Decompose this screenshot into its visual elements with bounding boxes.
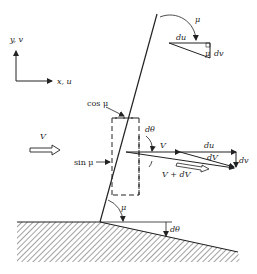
triangle-mu-label: μ — [205, 49, 210, 58]
y-axis-label: y, v — [9, 35, 24, 44]
dv-label: dv — [239, 156, 249, 165]
du-label: du — [204, 141, 214, 150]
upper-velocity-triangle: μ du μ dv — [160, 15, 224, 58]
coordinate-axes: y, v x, u — [9, 35, 72, 86]
freestream-label: V — [40, 132, 47, 141]
mach-wave-diagram: y, v x, u V dθ μ μ du μ dv cos μ — [0, 0, 257, 274]
svg-text:μ: μ — [121, 203, 126, 212]
velocity-vectors: V du dV V + dV dv — [126, 141, 249, 179]
sin-mu-label: sin μ — [74, 158, 94, 167]
top-du-label: du — [176, 33, 186, 42]
v-label: V — [160, 141, 167, 150]
top-dv-label: dv — [214, 49, 224, 58]
v-plus-dv-label: V + dV — [162, 170, 192, 179]
cos-mu-label: cos μ — [87, 99, 108, 108]
top-mu-label: μ — [195, 15, 200, 24]
bottom-mu-angle: μ — [108, 200, 126, 221]
dV-label: dV — [207, 153, 219, 162]
dashed-control-box: cos μ sin μ dθ — [74, 99, 155, 195]
wall-dtheta-label: dθ — [170, 225, 180, 234]
box-dtheta-label: dθ — [145, 125, 155, 134]
wall: dθ — [17, 222, 242, 262]
freestream-arrow: V — [30, 132, 60, 155]
x-axis-label: x, u — [57, 77, 72, 86]
